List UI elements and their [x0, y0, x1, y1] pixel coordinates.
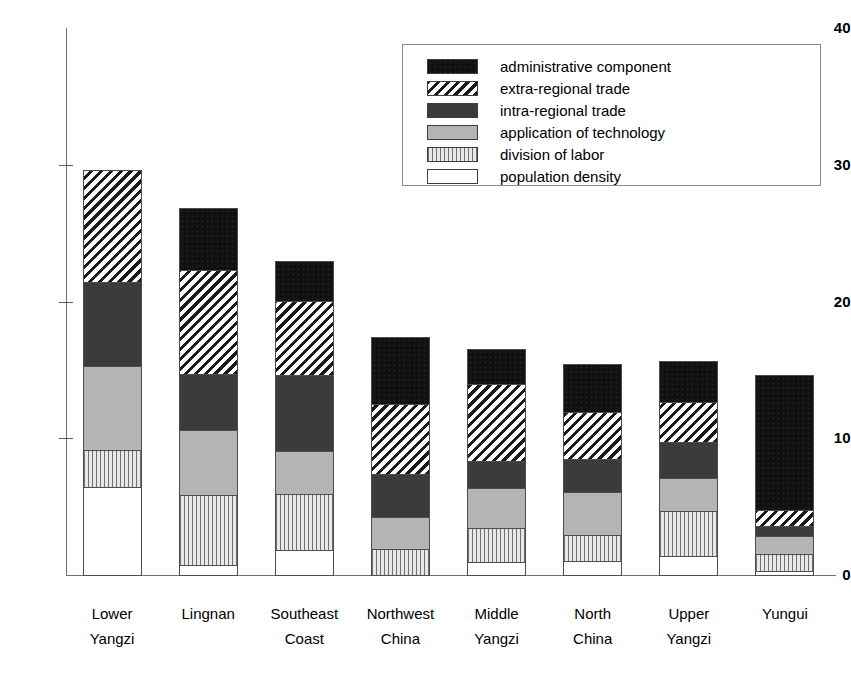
legend-item-label: application of technology: [500, 125, 665, 140]
x-axis-label-southeast-coast: SoutheastCoast: [249, 601, 359, 651]
bar-segment-administrative-component: [467, 349, 526, 386]
bar-northwest-china: [371, 337, 430, 575]
x-axis-label-line: Yangzi: [57, 626, 167, 651]
bar-segment-extra-regional-trade: [83, 170, 142, 284]
bar-segment-extra-regional-trade: [755, 510, 814, 526]
x-axis-label-line: Southeast: [249, 601, 359, 626]
legend-swatch-icon: [427, 147, 478, 162]
bar-segment-division-of-labor: [275, 494, 334, 551]
bar-segment-application-of-technology: [563, 492, 622, 536]
x-axis-label-line: Yangzi: [634, 626, 744, 651]
legend-item-administrative-component: administrative component: [427, 55, 671, 77]
legend-item-label: administrative component: [500, 59, 671, 74]
bar-segment-population-density: [275, 550, 334, 576]
x-axis-label-line: Northwest: [345, 601, 455, 626]
bar-segment-division-of-labor: [467, 528, 526, 564]
legend-swatch-icon: [427, 125, 478, 140]
bar-lingnan: [179, 208, 238, 575]
legend-swatch-icon: [427, 81, 478, 96]
bar-segment-population-density: [83, 487, 142, 576]
legend-item-label: intra-regional trade: [500, 103, 626, 118]
bar-segment-division-of-labor: [83, 450, 142, 488]
bar-segment-application-of-technology: [755, 536, 814, 555]
bar-middle-yangzi: [467, 349, 526, 575]
bar-segment-intra-regional-trade: [275, 375, 334, 452]
legend-item-population-density: population density: [427, 165, 621, 187]
bar-segment-administrative-component: [371, 337, 430, 405]
bar-segment-intra-regional-trade: [179, 374, 238, 431]
legend-item-label: extra-regional trade: [500, 81, 630, 96]
bar-segment-extra-regional-trade: [275, 301, 334, 376]
stacked-bar-chart: 010203040 LowerYangziLingnanSoutheastCoa…: [0, 0, 851, 673]
legend-item-extra-regional-trade: extra-regional trade: [427, 77, 630, 99]
bar-segment-intra-regional-trade: [467, 461, 526, 488]
legend-swatch-icon: [427, 103, 478, 118]
x-axis-label-line: North: [538, 601, 648, 626]
x-axis-label-lower-yangzi: LowerYangzi: [57, 601, 167, 651]
x-axis-label-line: Coast: [249, 626, 359, 651]
legend-item-intra-regional-trade: intra-regional trade: [427, 99, 626, 121]
bar-segment-application-of-technology: [179, 430, 238, 496]
bar-segment-intra-regional-trade: [563, 459, 622, 493]
bar-lower-yangzi: [83, 170, 142, 575]
bar-segment-administrative-component: [659, 361, 718, 403]
bar-segment-application-of-technology: [467, 488, 526, 529]
bar-north-china: [563, 364, 622, 575]
bar-segment-extra-regional-trade: [659, 402, 718, 443]
bar-segment-application-of-technology: [275, 451, 334, 495]
bar-segment-division-of-labor: [563, 535, 622, 562]
bar-upper-yangzi: [659, 361, 718, 575]
bar-segment-division-of-labor: [659, 511, 718, 556]
x-axis-label-upper-yangzi: UpperYangzi: [634, 601, 744, 651]
bar-segment-application-of-technology: [371, 517, 430, 550]
bar-segment-extra-regional-trade: [179, 270, 238, 375]
bar-segment-intra-regional-trade: [371, 474, 430, 518]
x-axis-label-middle-yangzi: MiddleYangzi: [442, 601, 552, 651]
chart-legend: administrative componentextra-regional t…: [402, 44, 821, 186]
x-axis-label-line: Lingnan: [153, 601, 263, 626]
bar-yungui: [755, 375, 814, 575]
x-axis-label-yungui: Yungui: [730, 601, 840, 626]
bar-segment-application-of-technology: [659, 478, 718, 512]
legend-item-label: division of labor: [500, 147, 604, 162]
x-axis-label-line: China: [538, 626, 648, 651]
x-axis-label-line: Upper: [634, 601, 744, 626]
bar-segment-division-of-labor: [179, 495, 238, 566]
x-axis-label-lingnan: Lingnan: [153, 601, 263, 626]
bar-segment-population-density: [755, 571, 814, 576]
legend-swatch-icon: [427, 59, 478, 74]
bar-segment-extra-regional-trade: [371, 404, 430, 475]
legend-swatch-icon: [427, 169, 478, 184]
legend-item-division-of-labor: division of labor: [427, 143, 604, 165]
x-axis-label-line: Yangzi: [442, 626, 552, 651]
bar-segment-division-of-labor: [371, 549, 430, 576]
bar-segment-intra-regional-trade: [83, 282, 142, 367]
bar-segment-population-density: [179, 565, 238, 576]
x-axis-label-line: Yungui: [730, 601, 840, 626]
bar-southeast-coast: [275, 261, 334, 575]
x-axis-label-line: Lower: [57, 601, 167, 626]
x-axis-label-north-china: NorthChina: [538, 601, 648, 651]
x-axis-label-line: China: [345, 626, 455, 651]
bar-segment-intra-regional-trade: [659, 442, 718, 479]
legend-item-application-of-technology: application of technology: [427, 121, 665, 143]
legend-item-label: population density: [500, 169, 621, 184]
bar-segment-extra-regional-trade: [467, 384, 526, 462]
bar-segment-population-density: [563, 561, 622, 576]
bar-segment-population-density: [659, 556, 718, 577]
bar-segment-administrative-component: [275, 261, 334, 302]
bar-segment-administrative-component: [755, 375, 814, 512]
bar-segment-administrative-component: [179, 208, 238, 271]
bar-segment-administrative-component: [563, 364, 622, 413]
bar-segment-division-of-labor: [755, 554, 814, 572]
x-axis-label-northwest-china: NorthwestChina: [345, 601, 455, 651]
bar-segment-application-of-technology: [83, 366, 142, 451]
bar-segment-extra-regional-trade: [563, 412, 622, 460]
x-axis-label-line: Middle: [442, 601, 552, 626]
bar-segment-population-density: [467, 562, 526, 576]
